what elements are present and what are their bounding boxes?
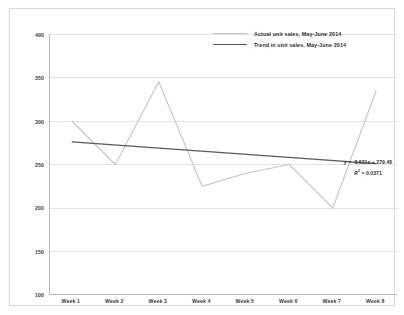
legend-item-trend: Trend in unit sales, May-June 2014 — [213, 39, 398, 50]
x-axis-tick: Week 4 — [192, 298, 210, 304]
trendline-equation: y = -3.631x + 279.46 — [337, 158, 399, 167]
y-axis-labels: 400 350 300 250 200 150 100 — [19, 34, 47, 295]
y-axis-tick: 400 — [35, 32, 44, 38]
trendline-equation-annotation: y = -3.631x + 279.46 R2 = 0.0371 — [337, 158, 399, 177]
legend-line-swatch-actual-icon — [213, 33, 247, 34]
y-axis-tick: 250 — [35, 162, 44, 168]
legend-line-swatch-trend-icon — [213, 44, 247, 45]
x-axis-labels: Week 1 Week 2 Week 3 Week 4 Week 5 Week … — [49, 298, 397, 312]
legend-item-actual: Actual unit sales, May-June 2014 — [213, 28, 398, 39]
y-axis-tick: 350 — [35, 75, 44, 81]
legend-label-actual: Actual unit sales, May-June 2014 — [254, 31, 341, 37]
y-axis-tick: 100 — [35, 292, 44, 298]
x-axis-tick: Week 2 — [105, 298, 123, 304]
chart-legend: Actual unit sales, May-June 2014 Trend i… — [213, 28, 398, 50]
x-axis-tick: Week 1 — [62, 298, 80, 304]
gridlines — [50, 35, 398, 252]
x-axis-tick: Week 6 — [279, 298, 297, 304]
x-axis-tick: Week 5 — [236, 298, 254, 304]
x-axis-tick: Week 8 — [366, 298, 384, 304]
y-axis-tick: 200 — [35, 205, 44, 211]
y-axis-tick: 300 — [35, 119, 44, 125]
y-axis-tick: 150 — [35, 249, 44, 255]
trendline-r-squared: R2 = 0.0371 — [337, 167, 399, 177]
chart-frame: 400 350 300 250 200 150 100 — [9, 8, 395, 306]
legend-label-trend: Trend in unit sales, May-June 2014 — [254, 42, 346, 48]
x-axis-tick: Week 3 — [149, 298, 167, 304]
r-squared-value: = 0.0371 — [360, 169, 382, 175]
chart-container: 400 350 300 250 200 150 100 — [0, 0, 404, 315]
x-axis-tick: Week 7 — [323, 298, 341, 304]
